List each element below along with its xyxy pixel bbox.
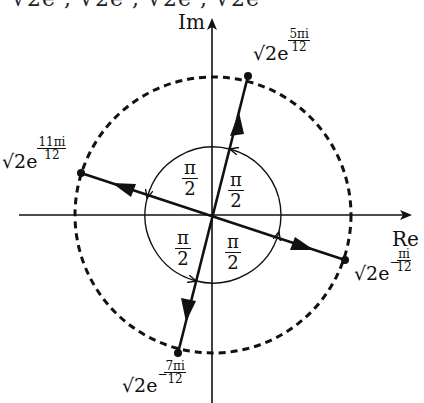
angle-label-upper-right: π2 — [228, 170, 244, 211]
angle-label-upper-left: π2 — [182, 158, 198, 199]
label-point-5pi-12: √2e5πi12 — [253, 42, 310, 67]
angle-numerator: π — [228, 170, 244, 191]
angle-denominator: 2 — [184, 179, 195, 199]
arrowhead-right-icon — [290, 237, 314, 250]
angle-denominator: 2 — [230, 191, 241, 211]
label-point-neg-7pi-12: √2e−7πi12 — [122, 374, 186, 399]
cropped-header-text: √2e , √2e , √2e , √2e — [12, 0, 260, 11]
point-neg-pi-12 — [341, 256, 349, 264]
angle-numerator: π — [182, 158, 198, 179]
arrowhead-down-icon — [181, 298, 196, 322]
exponent: −7πi12 — [164, 360, 185, 385]
base-e: e — [146, 374, 157, 396]
minus-sign: − — [157, 368, 167, 380]
base-e: e — [26, 150, 37, 172]
exponent: −πi12 — [396, 248, 411, 273]
exponent-denominator: 12 — [291, 41, 306, 53]
angle-label-lower-right: π2 — [225, 232, 241, 273]
angle-denominator: 2 — [227, 253, 238, 273]
angle-label-lower-left: π2 — [175, 228, 191, 269]
magnitude: √2 — [122, 374, 146, 396]
exponent: 11πi12 — [37, 136, 66, 161]
point-11pi-12 — [77, 169, 85, 177]
exponent: 5πi12 — [288, 28, 309, 53]
point-neg-7pi-12 — [174, 349, 182, 357]
arrowhead-left-icon — [112, 183, 136, 197]
complex-plane-diagram — [0, 0, 424, 403]
magnitude: √2 — [354, 262, 378, 284]
exponent-denominator: 12 — [44, 149, 59, 161]
base-e: e — [277, 42, 288, 64]
label-point-neg-pi-12: √2e−πi12 — [354, 262, 412, 287]
angle-numerator: π — [175, 228, 191, 249]
label-point-11pi-12: √2e11πi12 — [2, 150, 66, 175]
exponent-denominator: 12 — [167, 373, 182, 385]
imaginary-axis-label: Im — [178, 10, 205, 34]
angle-numerator: π — [225, 232, 241, 253]
point-5pi-12 — [244, 72, 252, 80]
angle-denominator: 2 — [177, 249, 188, 269]
magnitude: √2 — [2, 150, 26, 172]
magnitude: √2 — [253, 42, 277, 64]
base-e: e — [378, 262, 389, 284]
minus-sign: − — [389, 256, 399, 268]
